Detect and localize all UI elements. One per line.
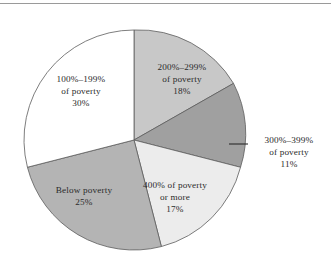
pie-label-300-399-of-poverty: 300%–399% of poverty 11% bbox=[250, 135, 328, 170]
pie-label-line-2: of poverty bbox=[250, 147, 328, 159]
pie-label-200-299-of-poverty: 200%–299% of poverty 18% bbox=[140, 62, 224, 97]
pie-label-400-of-poverty-or-more: 400% of poverty or more 17% bbox=[127, 180, 223, 215]
pie-label-line-2: of poverty bbox=[140, 74, 224, 86]
pie-label-100-199-of-poverty: 100%–199% of poverty 30% bbox=[33, 74, 129, 109]
chart-plot-area: 100%–199% of poverty 30% 200%–299% of po… bbox=[0, 0, 331, 271]
pie-label-below-poverty: Below poverty 25% bbox=[38, 185, 130, 209]
pie-label-line-1: 100%–199% bbox=[33, 74, 129, 86]
pie-label-value: 17% bbox=[127, 204, 223, 216]
pie-chart-figure: 100%–199% of poverty 30% 200%–299% of po… bbox=[0, 0, 331, 271]
pie-label-value: 30% bbox=[33, 98, 129, 110]
pie-label-line-1: Below poverty bbox=[38, 185, 130, 197]
pie-label-line-1: 300%–399% bbox=[250, 135, 328, 147]
pie-label-line-1: 400% of poverty bbox=[127, 180, 223, 192]
pie-label-line-2: or more bbox=[127, 192, 223, 204]
pie-label-value: 11% bbox=[250, 159, 328, 171]
pie-label-value: 18% bbox=[140, 86, 224, 98]
pie-label-value: 25% bbox=[38, 197, 130, 209]
pie-label-line-1: 200%–299% bbox=[140, 62, 224, 74]
pie-label-line-2: of poverty bbox=[33, 86, 129, 98]
